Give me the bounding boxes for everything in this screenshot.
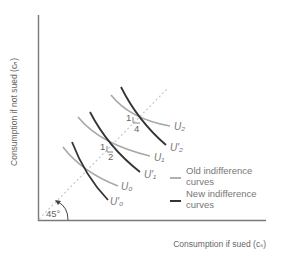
- label-U0: U₀: [121, 181, 132, 192]
- slope-rise-1b: 1: [126, 112, 131, 123]
- slope-run-4: 4: [134, 123, 139, 134]
- label-U1: U₁: [154, 152, 164, 163]
- legend-new-label-2: curves: [186, 199, 214, 210]
- legend: Old indifference curves New indifference…: [170, 165, 257, 210]
- y-axis-label: Consumption if not sued (cₙ): [9, 58, 19, 166]
- curve-U2: [111, 95, 170, 126]
- legend-old-label-2: curves: [186, 176, 214, 187]
- label-U1-prime: U′₁: [144, 169, 156, 180]
- legend-new-label-1: New indifference: [186, 188, 257, 199]
- certainty-line-45deg: [39, 88, 168, 219]
- legend-old-label-1: Old indifference: [186, 165, 252, 176]
- label-U2-prime: U′₂: [170, 142, 183, 153]
- indifference-curve-diagram: Consumption if not sued (cₙ) 45° 1 2 1 4…: [0, 0, 284, 266]
- x-axis-label: Consumption if sued (cₛ): [173, 239, 266, 249]
- slope-run-2: 2: [108, 151, 113, 162]
- slope-rise-1: 1: [100, 141, 105, 152]
- angle-label: 45°: [46, 208, 61, 219]
- label-U0-prime: U′₀: [110, 196, 123, 207]
- label-U2: U₂: [174, 121, 185, 132]
